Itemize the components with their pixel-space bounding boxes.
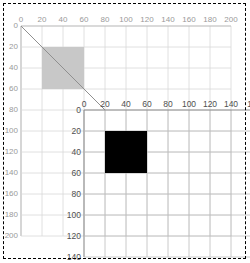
- x-tick-label: 40: [121, 100, 130, 109]
- x-tick-label: 100: [182, 100, 196, 109]
- y-tick-label: 40: [72, 148, 81, 157]
- y-tick-label: 120: [67, 232, 81, 241]
- inner-grid: [0, 0, 250, 263]
- black-square: [105, 131, 147, 173]
- y-tick-label: 60: [72, 169, 81, 178]
- y-tick-label: 0: [76, 106, 81, 115]
- figure-canvas: 0204060801001201401601802000204060801001…: [0, 0, 250, 263]
- x-tick-label: 140: [224, 100, 238, 109]
- x-tick-label: 60: [142, 100, 151, 109]
- x-tick-label: 80: [163, 100, 172, 109]
- y-tick-label: 80: [72, 190, 81, 199]
- x-tick-label: 16: [247, 100, 250, 109]
- y-tick-label: 20: [72, 127, 81, 136]
- x-tick-label: 120: [203, 100, 217, 109]
- y-tick-label: 140: [67, 253, 81, 262]
- x-tick-label: 0: [82, 100, 87, 109]
- y-tick-label: 100: [67, 211, 81, 220]
- x-tick-label: 20: [100, 100, 109, 109]
